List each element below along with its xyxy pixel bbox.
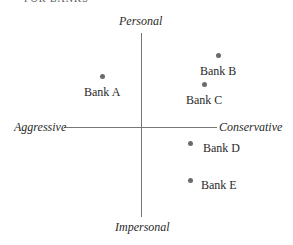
diagram-caption: FOR BANKS xyxy=(24,0,89,4)
bank-b-marker xyxy=(216,53,221,58)
bank-c-marker xyxy=(202,82,207,87)
bank-e-label: Bank E xyxy=(201,178,237,193)
axis-label-personal: Personal xyxy=(119,14,162,29)
bank-b-label: Bank B xyxy=(200,64,236,79)
bank-e-marker xyxy=(188,178,193,183)
bank-d-label: Bank D xyxy=(203,141,240,156)
bank-c-label: Bank C xyxy=(186,93,222,108)
vertical-axis xyxy=(141,33,142,217)
bank-a-marker xyxy=(100,74,105,79)
bank-a-label: Bank A xyxy=(84,85,120,100)
axis-label-aggressive: Aggressive xyxy=(14,120,66,135)
axis-label-conservative: Conservative xyxy=(219,120,282,135)
axis-label-impersonal: Impersonal xyxy=(115,220,170,235)
bank-d-marker xyxy=(188,141,193,146)
horizontal-axis xyxy=(64,127,217,128)
